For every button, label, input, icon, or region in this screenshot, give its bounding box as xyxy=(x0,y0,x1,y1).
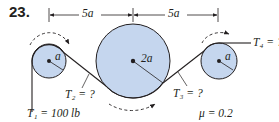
pulley-diagram xyxy=(0,0,279,122)
tension-t3-label: T₃ = ? xyxy=(173,87,203,99)
dimension-line xyxy=(49,8,218,22)
dimension-label-left: 5a xyxy=(82,7,94,19)
dimension-label-right: 5a xyxy=(168,7,180,19)
center-radius-label: 2a xyxy=(141,52,153,64)
friction-coefficient-label: μ = 0.2 xyxy=(199,107,233,119)
belt-pulley-figure: 23. 5a 5a a 2a a T₁ = 100 lb T₂ = ? T₃ =… xyxy=(0,0,279,122)
left-radius-label: a xyxy=(55,50,61,62)
problem-number: 23. xyxy=(9,3,30,20)
tension-t2-label: T₂ = ? xyxy=(65,88,95,100)
right-radius-label: a xyxy=(225,50,231,62)
tension-t1-label: T₁ = 100 lb xyxy=(27,107,80,119)
tension-t4-label: T₄ = ? xyxy=(253,36,279,48)
